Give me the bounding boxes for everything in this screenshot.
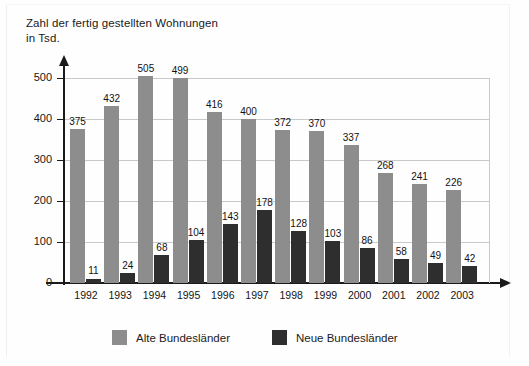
chart-title: Zahl der fertig gestellten Wohnungen in …	[26, 16, 218, 46]
x-axis-tick-label: 2002	[416, 289, 439, 301]
bar-value-label: 86	[362, 235, 373, 246]
bar-neue-bundeslaender	[360, 248, 375, 283]
bar-alte-bundeslaender	[138, 76, 153, 283]
plot-right-border	[489, 78, 490, 283]
bar-neue-bundeslaender	[428, 263, 443, 283]
x-axis-arrow-icon	[500, 278, 511, 288]
bar-neue-bundeslaender	[291, 231, 306, 283]
bar-alte-bundeslaender	[378, 173, 393, 283]
y-axis-tick	[57, 242, 65, 243]
bar-value-label: 103	[325, 228, 342, 239]
bar-value-label: 505	[138, 63, 155, 74]
legend-item: Alte Bundesländer	[112, 330, 230, 345]
bar-value-label: 241	[411, 171, 428, 182]
bar-value-label: 178	[256, 197, 273, 208]
x-axis-tick-label: 2000	[348, 289, 371, 301]
bar-alte-bundeslaender	[412, 184, 427, 283]
legend-item: Neue Bundesländer	[272, 330, 398, 345]
y-axis-tick	[57, 160, 65, 161]
bar-neue-bundeslaender	[394, 259, 409, 283]
y-axis-tick-label: 300	[8, 153, 52, 165]
x-axis-tick-label: 2003	[451, 289, 474, 301]
bar-alte-bundeslaender	[446, 190, 461, 283]
bar-value-label: 68	[156, 242, 167, 253]
chart-legend: Alte BundesländerNeue Bundesländer	[0, 330, 529, 352]
bar-neue-bundeslaender	[154, 255, 169, 283]
bar-value-label: 268	[377, 160, 394, 171]
bar-value-label: 226	[445, 177, 462, 188]
bar-alte-bundeslaender	[207, 112, 222, 283]
bar-value-label: 104	[188, 227, 205, 238]
y-axis-arrow-icon	[59, 55, 69, 66]
x-axis-tick-label: 1995	[177, 289, 200, 301]
bar-alte-bundeslaender	[344, 145, 359, 283]
gridline	[64, 78, 490, 79]
y-axis-tick-label: 400	[8, 112, 52, 124]
bar-neue-bundeslaender	[462, 266, 477, 283]
x-axis-tick-label: 1996	[211, 289, 234, 301]
chart-page: Zahl der fertig gestellten Wohnungen in …	[0, 0, 529, 366]
bar-alte-bundeslaender	[309, 131, 324, 283]
y-axis-tick-label: 200	[8, 194, 52, 206]
y-axis-tick-label: 500	[8, 71, 52, 83]
legend-swatch-alt	[112, 330, 127, 345]
x-axis-tick-label: 1999	[314, 289, 337, 301]
legend-label: Neue Bundesländer	[296, 332, 398, 344]
y-axis-tick-labels: 0100200300400500	[0, 0, 52, 366]
bar-value-label: 416	[206, 99, 223, 110]
bar-neue-bundeslaender	[223, 224, 238, 283]
bar-value-label: 49	[430, 250, 441, 261]
y-axis-tick	[57, 78, 65, 79]
bar-neue-bundeslaender	[86, 279, 101, 284]
bar-value-label: 58	[396, 246, 407, 257]
y-axis-tick	[57, 201, 65, 202]
legend-label: Alte Bundesländer	[136, 332, 230, 344]
bar-alte-bundeslaender	[104, 106, 119, 283]
legend-swatch-neu	[272, 330, 287, 345]
bar-alte-bundeslaender	[241, 119, 256, 283]
bar-value-label: 337	[343, 132, 360, 143]
y-axis-tick	[57, 119, 65, 120]
x-axis-tick-label: 1993	[109, 289, 132, 301]
y-axis-tick-label: 100	[8, 235, 52, 247]
y-axis-tick	[57, 283, 65, 284]
x-axis-tick-label: 1997	[245, 289, 268, 301]
x-axis-tick-label: 1998	[280, 289, 303, 301]
bar-value-label: 42	[464, 253, 475, 264]
x-axis-tick-label: 2001	[382, 289, 405, 301]
bar-value-label: 499	[172, 65, 189, 76]
bar-value-label: 400	[240, 106, 257, 117]
bar-value-label: 143	[222, 211, 239, 222]
bar-value-label: 432	[103, 93, 120, 104]
bar-value-label: 372	[274, 117, 291, 128]
bar-value-label: 370	[309, 118, 326, 129]
bar-value-label: 24	[122, 260, 133, 271]
bar-neue-bundeslaender	[325, 241, 340, 283]
bar-alte-bundeslaender	[173, 78, 188, 283]
bar-alte-bundeslaender	[275, 130, 290, 283]
bar-value-label: 11	[88, 265, 98, 276]
bar-neue-bundeslaender	[257, 210, 272, 283]
bar-value-label: 375	[69, 116, 86, 127]
bar-neue-bundeslaender	[189, 240, 204, 283]
x-axis-tick-label: 1992	[74, 289, 97, 301]
bar-neue-bundeslaender	[120, 273, 135, 283]
bar-value-label: 128	[290, 218, 307, 229]
x-axis-tick-label: 1994	[143, 289, 166, 301]
bar-alte-bundeslaender	[70, 129, 85, 283]
